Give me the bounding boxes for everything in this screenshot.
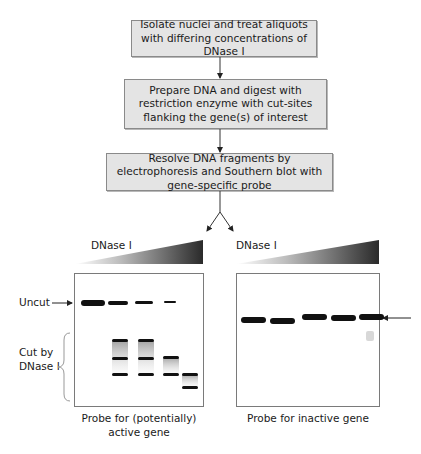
arrow-split-left — [207, 212, 220, 231]
band-uncut-lane2 — [108, 301, 128, 305]
band-cut-lane2-1 — [112, 339, 128, 342]
band-lane3 — [302, 314, 327, 320]
dnase-gradient-right — [236, 240, 379, 264]
arrow-split-right — [220, 212, 233, 231]
band-cut-lane5-2 — [182, 386, 198, 389]
band-lane2 — [270, 318, 295, 324]
band-uncut-lane4 — [164, 301, 176, 303]
band-cut-lane3-2 — [138, 357, 154, 360]
band-cut-lane4-2 — [163, 373, 179, 376]
band-lane1 — [241, 317, 266, 323]
band-uncut-lane3 — [135, 301, 153, 304]
dnase-gradient-left — [75, 240, 203, 264]
bands-inactive-gene — [241, 314, 384, 341]
band-cut-lane3-3 — [138, 373, 154, 376]
band-uncut-lane1 — [81, 300, 105, 306]
cut-brace — [58, 333, 70, 401]
band-lane5 — [359, 314, 384, 320]
band-lane4 — [331, 315, 356, 321]
bands-active-gene — [81, 300, 198, 389]
band-cut-lane2-3 — [112, 373, 128, 376]
band-cut-lane3-1 — [138, 339, 154, 342]
band-cut-lane4-1 — [163, 356, 179, 359]
faint-band-lane5 — [366, 331, 374, 341]
band-cut-lane5-1 — [182, 373, 198, 376]
smear-lane4 — [163, 357, 179, 375]
diagram-graphics — [0, 0, 421, 454]
band-cut-lane2-2 — [112, 357, 128, 360]
